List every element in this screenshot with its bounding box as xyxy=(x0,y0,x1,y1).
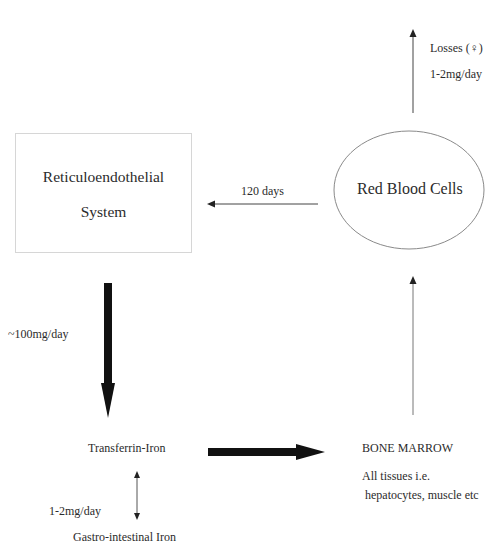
transferrin-iron-label: Transferrin-Iron xyxy=(88,441,166,456)
re-system-label-line1: Reticuloendothelial xyxy=(16,168,191,186)
gastrointestinal-iron-label: Gastro-intestinal Iron xyxy=(73,530,176,545)
red-blood-cells-label: Red Blood Cells xyxy=(357,180,463,198)
bone-marrow-sub-label-1: All tissues i.e. xyxy=(362,469,430,484)
gi-exchange-rate-label: 1-2mg/day xyxy=(49,504,101,519)
rbc-lifespan-label: 120 days xyxy=(241,184,284,199)
bone-marrow-sub-label-2: hepatocytes, muscle etc xyxy=(365,488,479,503)
gi-exchange-double-arrow-icon xyxy=(134,471,140,520)
losses-rate-label: 1-2mg/day xyxy=(430,67,482,82)
marrow-to-rbc-arrow-icon xyxy=(410,276,417,415)
re-to-transferrin-thick-arrow-icon xyxy=(101,283,115,418)
bone-marrow-label: BONE MARROW xyxy=(362,441,453,456)
re-to-transferrin-rate-label: ~100mg/day xyxy=(8,327,69,342)
transferrin-to-marrow-thick-arrow-icon xyxy=(208,444,325,460)
losses-label: Losses (♀) xyxy=(430,41,483,56)
losses-arrow-icon xyxy=(410,29,417,113)
re-system-label-line2: System xyxy=(16,203,191,221)
diagram-canvas xyxy=(0,0,502,546)
rbc-to-re-arrow-icon xyxy=(207,201,318,208)
reticuloendothelial-system-box: Reticuloendothelial System xyxy=(15,133,192,253)
